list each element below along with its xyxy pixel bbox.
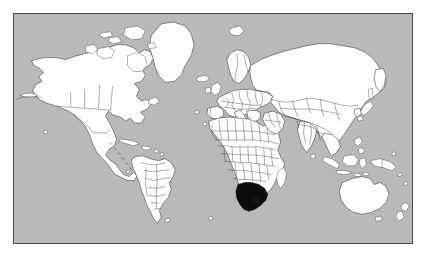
world-map-svg xyxy=(14,14,412,243)
landmass-ireland xyxy=(205,87,211,93)
landmass-sakhalin xyxy=(368,88,373,99)
landmass-tasmania xyxy=(375,216,382,221)
world-map-frame xyxy=(13,13,413,244)
map-page xyxy=(0,0,426,260)
landmass-sri-lanka xyxy=(311,154,316,159)
